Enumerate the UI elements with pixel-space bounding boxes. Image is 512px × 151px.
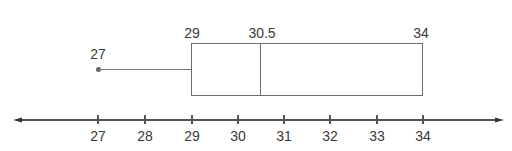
tick-28 <box>144 115 146 124</box>
median-label: 30.5 <box>248 26 275 40</box>
lower-whisker <box>98 69 191 70</box>
number-line <box>16 119 500 121</box>
q1-label: 29 <box>184 26 200 40</box>
box-plot: 27 28 29 30 31 32 33 34 27 29 30.5 34 <box>0 0 512 151</box>
median-line <box>260 43 261 96</box>
tick-label-27: 27 <box>90 129 106 143</box>
tick-label-33: 33 <box>369 129 385 143</box>
tick-label-31: 31 <box>276 129 292 143</box>
tick-label-34: 34 <box>415 129 431 143</box>
tick-32 <box>329 115 331 124</box>
tick-33 <box>376 115 378 124</box>
left-arrow-icon <box>13 115 23 125</box>
tick-34 <box>422 115 424 124</box>
tick-label-29: 29 <box>184 129 200 143</box>
min-label: 27 <box>90 47 106 61</box>
tick-label-30: 30 <box>230 129 246 143</box>
iqr-box <box>191 43 423 96</box>
tick-label-32: 32 <box>322 129 338 143</box>
tick-30 <box>237 115 239 124</box>
tick-27 <box>97 115 99 124</box>
tick-29 <box>191 115 193 124</box>
tick-31 <box>283 115 285 124</box>
q3-label: 34 <box>413 26 429 40</box>
right-arrow-icon <box>495 115 505 125</box>
tick-label-28: 28 <box>137 129 153 143</box>
